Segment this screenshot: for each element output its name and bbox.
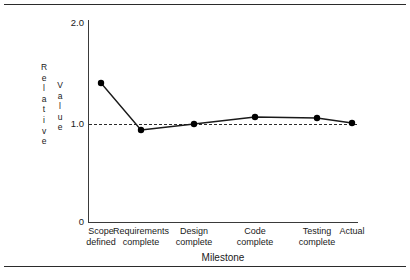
data-point[interactable] [252, 114, 258, 120]
x-axis-title: Milestone [88, 252, 358, 263]
figure-container: 2.0 1.0 0 Relative Value Milestone Scope… [0, 0, 410, 280]
data-point[interactable] [138, 127, 144, 133]
data-point[interactable] [314, 115, 320, 121]
series-line [101, 83, 352, 130]
data-point[interactable] [191, 121, 197, 127]
x-category-label: Actual [312, 226, 392, 237]
data-point[interactable] [349, 120, 355, 126]
data-point[interactable] [98, 80, 104, 86]
